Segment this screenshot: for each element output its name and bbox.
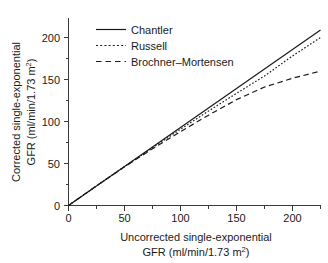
svg-text:GFR (ml/min/1.73 m2): GFR (ml/min/1.73 m2) [24,59,37,166]
svg-text:Corrected single-exponential: Corrected single-exponential [10,42,22,182]
y-axis-title-line2: GFR (ml/min/1.73 m [25,66,37,165]
axes-group [68,18,321,206]
chart-legend: Chantler Russell Brochner–Mortensen [96,24,234,68]
y-tick-marks-major [64,38,69,206]
chart-figure: 0 50 100 150 200 0 50 100 150 200 Chantl… [0,0,328,263]
x-axis-title-line1: Uncorrected single-exponential [120,231,272,243]
gfr-line-chart: 0 50 100 150 200 0 50 100 150 200 Chantl… [0,0,328,263]
series-line-brochner-mortensen [69,71,321,205]
x-tick-label: 200 [283,212,301,224]
x-tick-labels: 0 50 100 150 200 [65,212,301,224]
y-tick-label: 150 [42,74,60,86]
x-tick-label: 150 [227,212,245,224]
y-tick-label: 50 [48,158,60,170]
x-tick-label: 100 [171,212,189,224]
x-tick-marks-major [69,206,293,211]
x-tick-label: 0 [65,212,71,224]
y-tick-label: 0 [54,200,60,212]
y-tick-label: 100 [42,116,60,128]
y-tick-labels: 0 50 100 150 200 [42,32,60,212]
svg-text:Uncorrected single-exponential: Uncorrected single-exponential [120,231,272,243]
x-axis-title: Uncorrected single-exponential GFR (ml/m… [120,231,272,258]
legend-label-chantler: Chantler [131,24,173,36]
svg-text:GFR (ml/min/1.73 m2): GFR (ml/min/1.73 m2) [143,245,250,258]
y-axis-title: Corrected single-exponential GFR (ml/min… [10,42,37,182]
y-axis-title-line2-end: ) [25,59,37,63]
x-axis-title-line2-end: ) [246,246,250,258]
x-tick-label: 50 [118,212,130,224]
x-axis-title-line2: GFR (ml/min/1.73 m [143,246,242,258]
y-axis-title-line1: Corrected single-exponential [10,42,22,182]
legend-label-russell: Russell [131,40,167,52]
y-tick-label: 200 [42,32,60,44]
legend-label-brochner-mortensen: Brochner–Mortensen [131,56,234,68]
